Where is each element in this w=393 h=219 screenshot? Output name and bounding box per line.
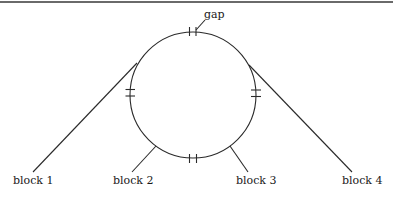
block-1-connector	[33, 63, 137, 172]
block-4-connector	[249, 65, 352, 172]
gap-label: gap	[204, 8, 225, 21]
block-3-connector	[230, 146, 248, 172]
block-3-label: block 3	[236, 174, 277, 187]
block-1-label: block 1	[13, 174, 54, 187]
gap-leader-line	[196, 20, 205, 30]
ring-circle	[130, 32, 256, 158]
block-2-label: block 2	[113, 174, 154, 187]
block-2-connector	[132, 146, 156, 172]
ring-diagram: gap block 1 block 2 block 3 block 4	[0, 0, 393, 219]
block-4-label: block 4	[342, 174, 383, 187]
